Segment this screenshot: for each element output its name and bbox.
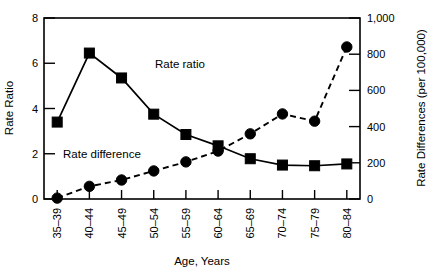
right-tick-label: 400 <box>367 121 385 133</box>
right-tick-label: 0 <box>367 193 373 205</box>
x-tick-label: 40–44 <box>83 208 95 239</box>
series-marker-square <box>245 154 255 164</box>
right-tick-label: 600 <box>367 84 385 96</box>
left-tick-label: 4 <box>32 103 38 115</box>
series-marker-circle <box>342 42 352 52</box>
x-tick-label: 35–39 <box>51 208 63 239</box>
left-tick-label: 6 <box>32 57 38 69</box>
plot-frame <box>44 18 360 199</box>
chart-container: 02468 02004006008001,000 35–3940–4445–49… <box>0 0 437 272</box>
series-marker-circle <box>84 181 94 191</box>
x-tick-label: 70–74 <box>276 208 288 239</box>
x-tick-label: 65–69 <box>244 208 256 239</box>
series-marker-circle <box>245 129 255 139</box>
plot-area-border <box>44 18 360 199</box>
right-axis-ticks: 02004006008001,000 <box>349 12 395 205</box>
series-marker-circle <box>181 157 191 167</box>
series-marker-square <box>84 48 94 58</box>
y2-axis-title: Rate Differences (per 100,000) <box>415 29 427 187</box>
series-marker-circle <box>213 146 223 156</box>
x-tick-label: 50–54 <box>148 208 160 239</box>
series-marker-square <box>181 130 191 140</box>
left-tick-label: 2 <box>32 148 38 160</box>
series-marker-circle <box>52 193 62 203</box>
x-tick-label: 45–49 <box>116 208 128 239</box>
x-tick-label: 80–84 <box>341 208 353 239</box>
rate-ratio-rate-difference-chart: 02468 02004006008001,000 35–3940–4445–49… <box>0 0 437 272</box>
series-annotation-2: Rate difference <box>63 148 141 160</box>
series-marker-square <box>277 160 287 170</box>
x-axis-ticks: 35–3940–4445–4950–5455–5960–6465–6970–74… <box>51 190 353 239</box>
x-tick-label: 60–64 <box>212 208 224 239</box>
series-marker-square <box>52 117 62 127</box>
series-marker-square <box>149 109 159 119</box>
series-marker-circle <box>116 175 126 185</box>
x-tick-label: 55–59 <box>180 208 192 239</box>
y-axis-title: Rate Ratio <box>3 81 15 135</box>
x-axis-title: Age, Years <box>174 255 230 267</box>
left-tick-label: 8 <box>32 12 38 24</box>
right-tick-label: 1,000 <box>367 12 395 24</box>
series-annotation-1: Rate ratio <box>155 58 205 70</box>
series-marker-square <box>342 159 352 169</box>
right-tick-label: 200 <box>367 157 385 169</box>
series-marker-square <box>117 73 127 83</box>
series-marker-square <box>310 161 320 171</box>
annotation-layer: Rate ratioRate difference <box>63 58 205 160</box>
series-marker-circle <box>149 166 159 176</box>
series-marker-circle <box>309 116 319 126</box>
right-tick-label: 800 <box>367 48 385 60</box>
series-marker-circle <box>277 109 287 119</box>
x-tick-label: 75–79 <box>309 208 321 239</box>
left-tick-label: 0 <box>32 193 38 205</box>
